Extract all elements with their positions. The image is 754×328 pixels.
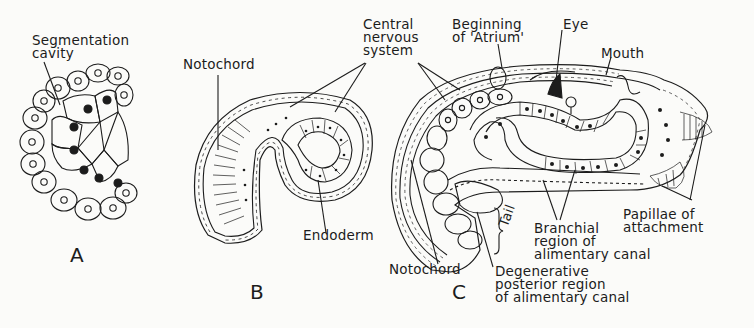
label-segmentation-cavity: Segmentation cavity: [32, 34, 129, 60]
label-beginning-of-atrium: Beginning of 'Atrium': [452, 18, 524, 44]
panel-label-b: B: [250, 280, 264, 304]
label-mouth: Mouth: [601, 47, 644, 60]
panel-label-c: C: [452, 280, 466, 304]
panel-b-drawing: [195, 63, 373, 243]
label-endoderm: Endoderm: [303, 229, 374, 242]
label-notochord-c: Notochord: [389, 263, 461, 276]
label-degenerative-posterior-region: Degenerative posterior region of aliment…: [495, 265, 630, 304]
label-eye: Eye: [563, 18, 588, 31]
label-notochord-b: Notochord: [183, 58, 255, 71]
label-central-nervous-system: Central nervous system: [363, 18, 419, 57]
panel-a-drawing: [20, 62, 137, 220]
label-papillae-of-attachment: Papillae of attachment: [623, 208, 703, 234]
panel-label-a: A: [70, 243, 84, 267]
embryo-development-figure: Segmentation cavity A Notochord Endoderm…: [0, 0, 754, 328]
